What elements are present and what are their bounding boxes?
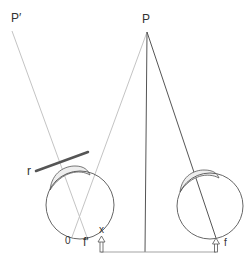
ray-p-vertical: [145, 32, 147, 252]
ray-p-to-f: [147, 32, 216, 238]
label-mirror-r: r: [27, 165, 31, 177]
right-arrow-icon: [213, 238, 220, 252]
label-f-prime: f′: [83, 236, 89, 248]
label-p-prime: P′: [11, 12, 21, 24]
label-origin-zero: 0: [65, 236, 71, 246]
label-p: P: [142, 13, 150, 25]
optics-diagram: [0, 0, 247, 263]
left-arrow-icon: [98, 236, 105, 252]
label-x: x: [99, 225, 104, 235]
left-eyelid: [50, 166, 90, 190]
right-eyeball: [177, 173, 243, 239]
label-f: f: [224, 238, 227, 248]
right-eye: [177, 170, 243, 239]
ray-p-prime-to-f-prime: [12, 31, 88, 240]
ray-p-to-origin: [72, 32, 147, 237]
